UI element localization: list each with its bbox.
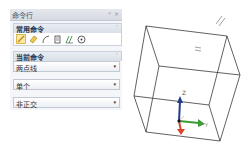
collapse-icon[interactable]: ˄	[116, 24, 119, 30]
eraser-tool-button[interactable]	[28, 34, 38, 44]
parallel-marker-icon	[216, 16, 225, 26]
dropdown-value: 非正交	[16, 99, 37, 109]
circle-center-tool-icon	[77, 35, 86, 44]
current-command-section: 当前命令 ˄	[13, 51, 122, 61]
line-type-dropdown[interactable]: 两点线 ▾	[13, 61, 120, 72]
chevron-down-icon: ▾	[113, 99, 116, 105]
dropdown-value: 两点线	[16, 63, 37, 73]
orthogonal-dropdown[interactable]: 非正交 ▾	[13, 97, 120, 108]
close-button[interactable]: ×	[114, 10, 119, 17]
panel-titlebar: 命令行 ᵖ ×	[10, 9, 122, 21]
common-tools-bar	[14, 33, 121, 45]
dimension-tool-button[interactable]	[64, 34, 74, 44]
eraser-tool-icon	[29, 35, 38, 44]
current-command-header[interactable]: 当前命令 ˄	[14, 52, 121, 61]
command-line-panel: 命令行 ᵖ × 常用命令 ˄	[10, 9, 122, 110]
document-tool-button[interactable]	[52, 34, 62, 44]
chevron-down-icon: ▾	[113, 81, 116, 87]
common-commands-section: 常用命令 ˄	[13, 23, 122, 46]
y-axis-arrow-icon	[198, 119, 205, 127]
mode-dropdown[interactable]: 单个 ▾	[13, 79, 120, 90]
line-tool-icon	[17, 35, 25, 43]
dropdown-value: 单个	[16, 81, 30, 91]
y-axis-label: Y	[204, 122, 209, 128]
pin-button[interactable]: ᵖ	[108, 10, 111, 17]
circle-center-tool-button[interactable]	[76, 34, 86, 44]
arc-tool-icon	[41, 35, 50, 44]
document-tool-icon	[53, 35, 62, 44]
collapse-icon[interactable]: ˄	[116, 52, 119, 58]
axis-gizmo: Z Y	[177, 89, 209, 135]
common-commands-header[interactable]: 常用命令 ˄	[14, 24, 121, 33]
line-tool-button[interactable]	[16, 34, 26, 44]
wireframe-box[interactable]	[134, 26, 240, 141]
3d-viewport[interactable]: Z Y	[125, 0, 251, 157]
z-axis-arrow-icon	[177, 96, 183, 103]
z-axis-label: Z	[182, 89, 186, 96]
x-axis-arrow-icon	[177, 129, 185, 135]
panel-title: 命令行	[12, 10, 33, 20]
equal-marker-icon	[195, 47, 201, 51]
arc-tool-button[interactable]	[40, 34, 50, 44]
chevron-down-icon: ▾	[113, 63, 116, 69]
dimension-tool-icon	[65, 35, 74, 44]
